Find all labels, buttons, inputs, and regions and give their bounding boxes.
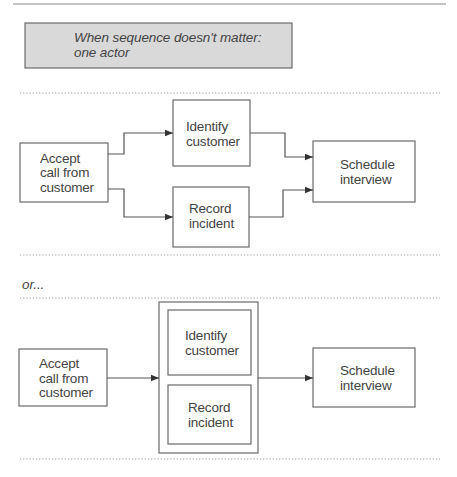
step-label: customer xyxy=(40,180,95,195)
step-label: interview xyxy=(340,378,392,393)
step-label: customer xyxy=(186,134,241,149)
step-schedule-interview: Schedule interview xyxy=(313,141,415,202)
step-label: incident xyxy=(189,216,234,231)
diagram-parallel-branches: Accept call from customer Identify custo… xyxy=(20,100,415,247)
callout-box: When sequence doesn't matter: one actor xyxy=(25,23,292,68)
arrow-accept-to-identify xyxy=(108,133,173,154)
step-label: customer xyxy=(185,343,240,358)
step-label: Identify xyxy=(186,119,228,134)
alternative-label: or... xyxy=(22,277,44,292)
step-label: Identify xyxy=(185,328,227,343)
step-record-incident: Record incident xyxy=(168,385,251,444)
step-record-incident: Record incident xyxy=(173,187,249,247)
arrow-accept-to-record xyxy=(108,189,173,217)
callout-line-2: one actor xyxy=(74,45,130,60)
step-label: Schedule xyxy=(340,363,395,378)
step-label: Accept xyxy=(40,151,81,166)
step-identify-customer: Identify customer xyxy=(173,100,250,166)
step-identify-customer: Identify customer xyxy=(168,310,251,375)
step-label: Schedule xyxy=(340,157,395,172)
callout-line-1: When sequence doesn't matter: xyxy=(74,30,262,45)
step-label: Record xyxy=(189,201,231,216)
step-accept-call: Accept call from customer xyxy=(19,349,107,406)
arrow-record-to-schedule xyxy=(249,190,313,217)
step-label: call from xyxy=(39,371,88,386)
process-diagram-canvas: When sequence doesn't matter: one actor … xyxy=(0,0,457,477)
diagram-grouped-steps: Accept call from customer Identify custo… xyxy=(19,302,415,453)
arrow-identify-to-schedule xyxy=(250,133,313,157)
step-accept-call: Accept call from customer xyxy=(20,143,108,202)
step-label: call from xyxy=(40,165,89,180)
step-label: interview xyxy=(340,172,392,187)
step-label: Accept xyxy=(39,356,80,371)
step-label: customer xyxy=(39,385,94,400)
step-schedule-interview: Schedule interview xyxy=(313,348,415,407)
step-label: Record xyxy=(188,400,230,415)
step-label: incident xyxy=(188,415,233,430)
